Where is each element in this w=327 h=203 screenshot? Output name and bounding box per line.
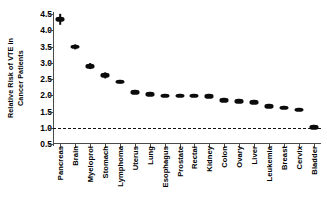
- x-axis-tick-label: Uterus: [130, 146, 139, 170]
- x-axis-line: [53, 143, 321, 144]
- y-axis-tick-mark: [49, 14, 53, 15]
- data-point: [116, 79, 125, 84]
- data-point: [190, 93, 199, 98]
- y-axis-tick-mark: [49, 95, 53, 96]
- y-axis-line: [53, 12, 54, 146]
- x-axis-tick-label: Ovary: [235, 146, 244, 168]
- x-axis-tick-label: Colon: [220, 146, 229, 168]
- data-point: [71, 44, 80, 49]
- y-axis-title-line-1: Relative Risk of VTE in: [6, 38, 16, 118]
- data-point: [294, 108, 303, 113]
- y-axis-tick-mark: [49, 63, 53, 64]
- x-axis-tick-label: Lung: [145, 146, 154, 165]
- data-point: [264, 104, 273, 109]
- x-axis-tick-label: Myeloprol: [86, 146, 95, 182]
- data-point: [175, 93, 184, 98]
- x-axis-tick-label: Stomach: [101, 146, 110, 178]
- x-axis-tick-label: Brain: [71, 146, 80, 166]
- x-axis-tick-labels: PancreasBrainMyeloprolStomachLymphomaUte…: [53, 146, 321, 203]
- x-axis-tick-label: Breast: [279, 146, 288, 170]
- reference-line-at-1: [53, 128, 321, 129]
- data-point: [235, 99, 244, 104]
- data-point: [220, 98, 229, 103]
- y-axis-title: Relative Risk of VTE in Cancer Patients: [0, 8, 30, 148]
- data-point: [130, 90, 139, 95]
- data-point: [101, 73, 110, 78]
- plot-area: [53, 14, 321, 144]
- data-point: [56, 17, 65, 22]
- data-point: [86, 64, 95, 69]
- x-axis-tick-label: Prostate: [175, 146, 184, 177]
- x-axis-tick-label: Cervix: [294, 146, 303, 170]
- x-axis-tick-label: Leukemia: [264, 146, 273, 181]
- x-axis-tick-label: Liver: [250, 146, 259, 164]
- y-axis-tick-mark: [49, 144, 53, 145]
- y-axis-title-line-2: Cancer Patients: [15, 38, 25, 118]
- x-axis-tick-label: Rectal: [190, 146, 199, 169]
- y-axis-tick-mark: [49, 128, 53, 129]
- data-point: [145, 92, 154, 97]
- y-axis-tick-mark: [49, 79, 53, 80]
- x-axis-tick-label: Lymphoma: [116, 146, 125, 187]
- y-axis-tick-mark: [49, 30, 53, 31]
- data-point: [279, 106, 288, 111]
- x-axis-tick-label: Bladder: [309, 146, 318, 175]
- data-point: [205, 94, 214, 99]
- x-axis-tick-label: Pancreas: [56, 146, 65, 180]
- y-axis-tick-mark: [49, 47, 53, 48]
- y-axis-tick-mark: [49, 112, 53, 113]
- x-axis-tick-label: Esophagus: [160, 146, 169, 187]
- data-point: [250, 100, 259, 105]
- vte-risk-chart: Relative Risk of VTE in Cancer Patients …: [0, 0, 327, 203]
- x-axis-tick-label: Kidney: [205, 146, 214, 172]
- data-point: [309, 125, 318, 130]
- data-point: [160, 93, 169, 98]
